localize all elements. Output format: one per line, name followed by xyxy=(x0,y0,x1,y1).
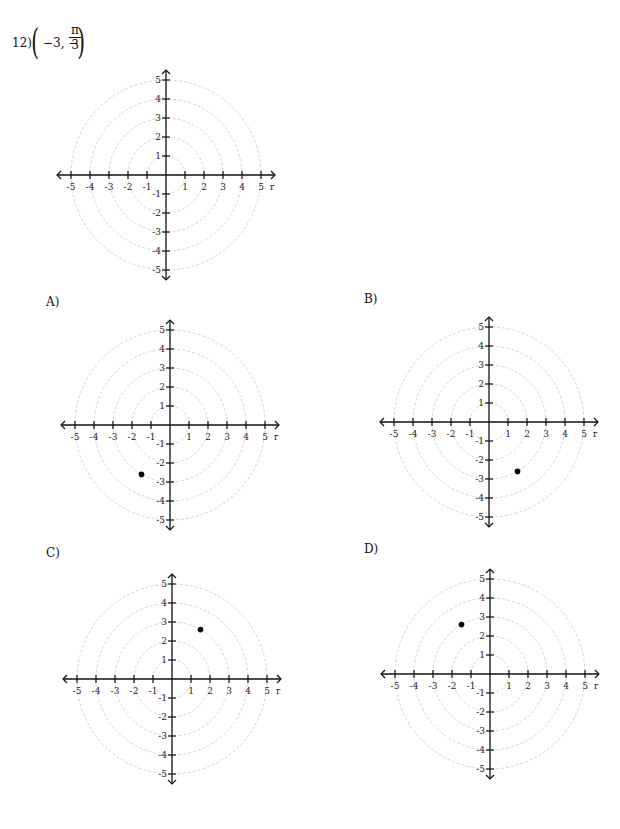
y-tick-label: -2 xyxy=(475,455,484,465)
x-tick-label: 1 xyxy=(186,432,192,442)
y-tick-label: 3 xyxy=(478,360,484,370)
y-tick-label: -4 xyxy=(475,493,484,503)
y-tick-label: 1 xyxy=(479,650,485,660)
x-tick-label: 2 xyxy=(524,429,530,439)
choice-c-graph: -5-5-4-4-3-3-2-2-1-11122334455r xyxy=(63,574,281,784)
x-tick-label: -2 xyxy=(447,429,456,439)
plotted-point xyxy=(198,627,204,633)
x-tick-label: 2 xyxy=(207,686,213,696)
y-tick-label: 5 xyxy=(161,579,167,589)
y-tick-label: -3 xyxy=(476,726,485,736)
y-tick-label: 3 xyxy=(161,617,167,627)
x-tick-label: 3 xyxy=(544,681,550,691)
y-tick-label: 2 xyxy=(478,379,484,389)
x-tick-label: 2 xyxy=(525,681,531,691)
choice-d-graph: -5-5-4-4-3-3-2-2-1-11122334455r xyxy=(381,569,599,779)
y-tick-label: -1 xyxy=(476,688,485,698)
y-tick-label: -1 xyxy=(158,693,167,703)
x-tick-label: -2 xyxy=(124,182,133,192)
y-tick-label: -5 xyxy=(156,515,165,525)
x-tick-label: 5 xyxy=(262,432,268,442)
x-tick-label: -3 xyxy=(105,182,114,192)
polar-graphs: -5-5-4-4-3-3-2-2-1-11122334455r-5-5-4-4-… xyxy=(0,0,620,829)
y-tick-label: 5 xyxy=(155,75,161,85)
r-axis-label: r xyxy=(594,681,599,691)
y-tick-label: -3 xyxy=(156,477,165,487)
x-tick-label: 3 xyxy=(226,686,232,696)
x-tick-label: -5 xyxy=(391,681,400,691)
x-tick-label: -4 xyxy=(86,182,95,192)
y-tick-label: 4 xyxy=(478,341,484,351)
x-tick-label: 2 xyxy=(201,182,207,192)
y-tick-label: -2 xyxy=(156,458,165,468)
y-tick-label: -2 xyxy=(476,707,485,717)
x-tick-label: 3 xyxy=(220,182,226,192)
x-tick-label: 1 xyxy=(505,429,511,439)
x-tick-label: -3 xyxy=(111,686,120,696)
y-tick-label: 1 xyxy=(478,398,484,408)
x-tick-label: 4 xyxy=(239,182,245,192)
x-tick-label: -1 xyxy=(467,681,476,691)
y-tick-label: -3 xyxy=(152,227,161,237)
y-tick-label: -2 xyxy=(158,712,167,722)
y-tick-label: 4 xyxy=(155,94,161,104)
x-tick-label: -5 xyxy=(71,432,80,442)
x-tick-label: -1 xyxy=(147,432,156,442)
y-tick-label: 5 xyxy=(478,322,484,332)
x-tick-label: -3 xyxy=(428,429,437,439)
x-tick-label: 1 xyxy=(188,686,194,696)
y-tick-label: 2 xyxy=(155,132,161,142)
y-tick-label: 4 xyxy=(159,344,165,354)
y-tick-label: -1 xyxy=(156,439,165,449)
y-tick-label: -4 xyxy=(158,750,167,760)
r-axis-label: r xyxy=(274,432,279,442)
y-tick-label: -4 xyxy=(152,246,161,256)
x-tick-label: -4 xyxy=(92,686,101,696)
y-tick-label: -4 xyxy=(156,496,165,506)
x-tick-label: -1 xyxy=(149,686,158,696)
y-tick-label: -5 xyxy=(475,512,484,522)
x-tick-label: 4 xyxy=(245,686,251,696)
x-tick-label: -5 xyxy=(73,686,82,696)
y-tick-label: 4 xyxy=(161,598,167,608)
y-tick-label: 3 xyxy=(479,612,485,622)
x-tick-label: 3 xyxy=(224,432,230,442)
y-tick-label: 2 xyxy=(479,631,485,641)
y-tick-label: -5 xyxy=(152,265,161,275)
x-tick-label: -1 xyxy=(143,182,152,192)
x-tick-label: 4 xyxy=(562,429,568,439)
x-tick-label: 5 xyxy=(582,681,588,691)
x-tick-label: -5 xyxy=(67,182,76,192)
x-tick-label: 3 xyxy=(543,429,549,439)
x-tick-label: 5 xyxy=(264,686,270,696)
y-tick-label: -3 xyxy=(475,474,484,484)
r-axis-label: r xyxy=(270,182,275,192)
plotted-point xyxy=(515,469,521,475)
y-tick-label: 1 xyxy=(155,151,161,161)
y-tick-label: 1 xyxy=(159,401,165,411)
x-tick-label: 4 xyxy=(563,681,569,691)
y-tick-label: 3 xyxy=(155,113,161,123)
x-tick-label: -4 xyxy=(410,681,419,691)
y-tick-label: -4 xyxy=(476,745,485,755)
choice-b-graph: -5-5-4-4-3-3-2-2-1-11122334455r xyxy=(380,317,598,527)
y-tick-label: -3 xyxy=(158,731,167,741)
y-tick-label: -2 xyxy=(152,208,161,218)
r-axis-label: r xyxy=(593,429,598,439)
x-tick-label: -5 xyxy=(390,429,399,439)
x-tick-label: 5 xyxy=(258,182,264,192)
y-tick-label: 2 xyxy=(161,636,167,646)
plotted-point xyxy=(139,472,145,478)
x-tick-label: 1 xyxy=(182,182,188,192)
x-tick-label: -2 xyxy=(448,681,457,691)
x-tick-label: -1 xyxy=(466,429,475,439)
x-tick-label: -4 xyxy=(90,432,99,442)
x-tick-label: -2 xyxy=(128,432,137,442)
x-tick-label: 5 xyxy=(581,429,587,439)
plotted-point xyxy=(459,622,465,628)
y-tick-label: -1 xyxy=(475,436,484,446)
y-tick-label: 5 xyxy=(479,574,485,584)
x-tick-label: 2 xyxy=(205,432,211,442)
x-tick-label: 1 xyxy=(506,681,512,691)
x-tick-label: 4 xyxy=(243,432,249,442)
